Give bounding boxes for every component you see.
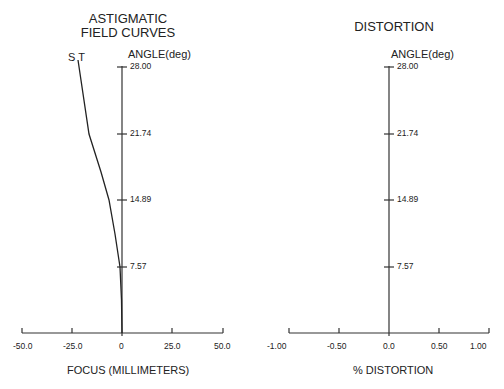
distortion-x-tick-1: 1.00	[470, 341, 487, 351]
astigmatic-y-tick-21: 21.74	[130, 128, 151, 138]
distortion-y-tick-28: 28.00	[397, 61, 418, 71]
astigmatic-title: ASTIGMATIC FIELD CURVES	[78, 12, 178, 40]
astigmatic-x-tick-neg25: -25.0	[63, 341, 82, 351]
astigmatic-x-tick-neg50: -50.0	[13, 341, 32, 351]
astigmatic-y-tick-7: 7.57	[130, 261, 147, 271]
distortion-x-tick-neg1: -1.00	[267, 341, 286, 351]
distortion-y-axis-label: ANGLE(deg)	[391, 48, 454, 60]
distortion-title: DISTORTION	[354, 20, 434, 34]
astigmatic-x-tick-25: 25.0	[164, 341, 181, 351]
distortion-y-tick-14: 14.89	[397, 194, 418, 204]
distortion-x-tick-0: 0.0	[383, 341, 395, 351]
distortion-y-tick-21: 21.74	[397, 128, 418, 138]
distortion-y-tick-7: 7.57	[397, 261, 414, 271]
distortion-x-axis-label: % DISTORTION	[353, 364, 433, 376]
astigmatic-legend-st: S T	[68, 51, 85, 63]
astigmatic-title-line-1: ASTIGMATIC	[78, 12, 178, 26]
astigmatic-x-tick-50: 50.0	[214, 341, 231, 351]
astigmatic-y-tick-14: 14.89	[130, 194, 151, 204]
astigmatic-x-axis-label: FOCUS (MILLIMETERS)	[67, 364, 189, 376]
astigmatic-curve-st	[78, 60, 122, 333]
distortion-x-tick-050: 0.50	[431, 341, 448, 351]
distortion-x-tick-neg050: -0.50	[327, 341, 346, 351]
astigmatic-x-tick-0: 0	[119, 341, 124, 351]
distortion-axes	[289, 66, 489, 336]
astigmatic-y-tick-28: 28.00	[130, 61, 151, 71]
astigmatic-axes	[22, 66, 223, 336]
astigmatic-y-axis-label: ANGLE(deg)	[128, 48, 191, 60]
astigmatic-title-line-2: FIELD CURVES	[78, 26, 178, 40]
